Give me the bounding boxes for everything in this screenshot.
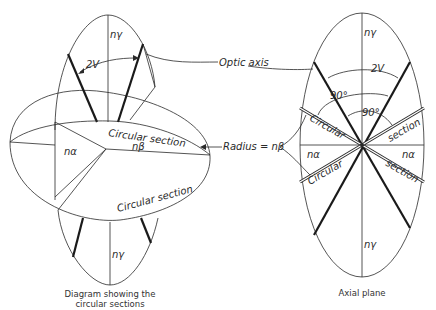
label-optic-axis: Optic axis [219,57,269,68]
left-indicatrix: nγ 2V Circular section nβ nα Circular se… [10,15,210,309]
top-lobe [55,15,155,130]
label-n-beta: nβ [132,141,145,152]
label-circular-bottom-left: Circular [306,157,346,186]
equatorial-ellipse [10,90,210,220]
label-n-alpha: nα [64,146,77,157]
label-ninety-outer: 90° [330,90,348,101]
caption-axial-plane: Axial plane [338,288,385,298]
label-n-alpha-right: nα [402,149,415,160]
n-beta-line [106,149,210,155]
optical-indicatrix-figure: nγ 2V Circular section nβ nα Circular se… [0,0,436,310]
label-n-gamma-top: nγ [110,29,123,40]
n-alpha-line-lower [55,149,106,197]
caption-line1: Diagram showing the [65,289,156,299]
caption-line2: circular sections [75,299,145,309]
center-point [360,143,364,147]
optic-axis-bottom-right [141,218,151,243]
two-v-arc [328,70,398,78]
radius-leader-down [280,147,310,175]
left-horizontal [10,142,55,145]
arrow-icon [200,144,206,150]
label-circular-section-top: Circular section [108,127,187,149]
label-n-gamma-bottom: nγ [364,239,377,250]
n-alpha-line-upper [55,122,106,149]
label-n-alpha-left: nα [307,149,320,160]
label-circular-section-bottom: Circular section [116,183,194,214]
diag-lower [58,149,106,210]
label-2v: 2V [86,59,100,70]
optic-axis-bottom-left [73,218,83,257]
label-n-gamma-top: nγ [364,27,377,38]
label-n-gamma-bottom: nγ [112,249,125,260]
optic-axis-leader-left [146,54,218,62]
label-radius: Radius = nβ [223,141,285,152]
label-2v: 2V [371,63,385,74]
label-circular-top-left: Circular [308,112,348,141]
label-section-bottom-right: section [384,157,421,185]
right-indicatrix: nγ 2V 90° 90° Circular section nα nα Cir… [300,13,424,298]
label-ninety-inner: 90° [362,107,380,118]
callouts: Optic axis Radius = nβ [146,54,313,175]
optic-axis-right [118,44,143,122]
arrow-icon [78,68,84,74]
